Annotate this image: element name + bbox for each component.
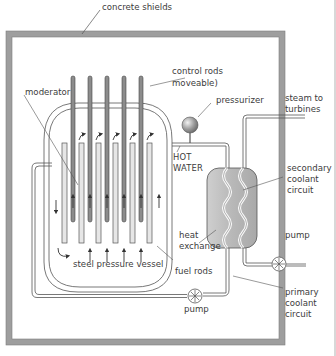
label-concrete-shields: concrete shields <box>102 2 173 12</box>
label-turbines: turbines <box>285 104 321 114</box>
label-hot: HOT <box>173 152 192 162</box>
label-primary: primary <box>285 287 319 297</box>
label-heat: heat <box>179 230 199 240</box>
pump-primary-icon <box>188 289 202 303</box>
label-pressurizer: pressurizer <box>216 95 264 105</box>
label-steam-to: steam to <box>285 93 323 103</box>
label-secondary: secondary <box>287 163 332 173</box>
heat-exchanger <box>207 168 257 248</box>
label-pump-secondary: pump <box>285 230 310 240</box>
label-fuel-rods: fuel rods <box>175 266 213 276</box>
label-control-rods: control rods <box>172 66 224 76</box>
label-coolant-secondary: coolant <box>287 174 319 184</box>
label-pump-primary: pump <box>184 304 209 314</box>
label-coolant-primary: coolant <box>285 298 317 308</box>
pump-secondary-icon <box>272 257 286 271</box>
leader-concrete <box>82 10 100 34</box>
label-control-rods-2: moveable) <box>172 78 218 88</box>
label-water: WATER <box>173 163 203 173</box>
label-steel-pressure-vessel: steel pressure vessel <box>73 259 163 269</box>
label-circuit-secondary: circuit <box>287 185 314 195</box>
label-circuit-primary: circuit <box>285 309 312 319</box>
pressurizer <box>182 117 198 143</box>
label-exchange: exchange <box>179 241 221 251</box>
label-moderator: moderator <box>25 87 71 97</box>
reactor-diagram: concrete shields control rods moveable) … <box>0 0 336 356</box>
